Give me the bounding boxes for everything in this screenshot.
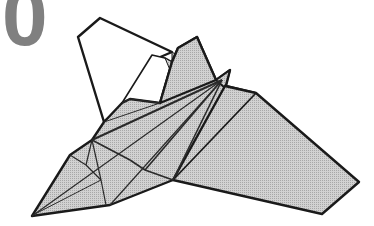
diagram-canvas: 0 — [0, 0, 374, 226]
origami-jet-drawing — [0, 0, 374, 226]
